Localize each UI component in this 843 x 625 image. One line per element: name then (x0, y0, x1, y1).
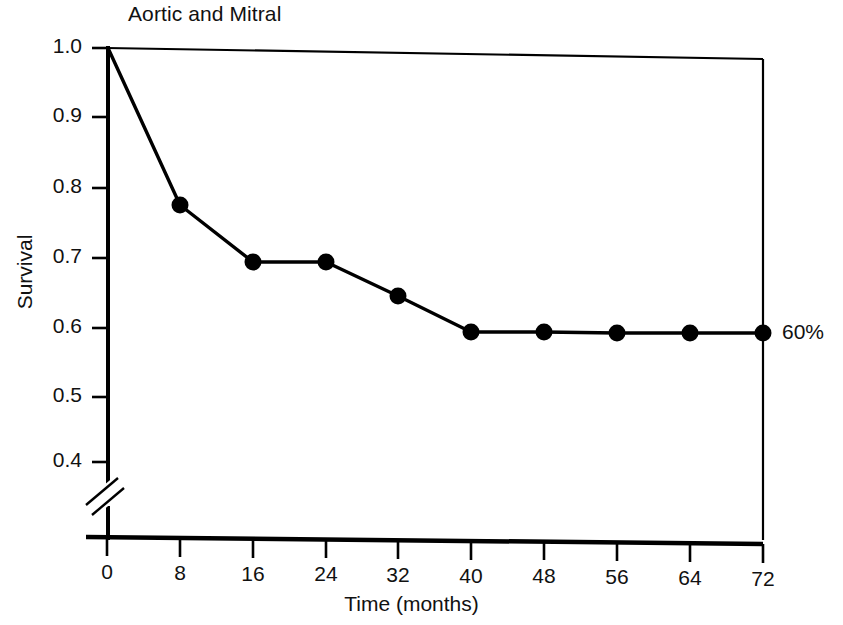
data-point (245, 254, 262, 271)
x-tick-label-24: 24 (296, 562, 356, 586)
x-tick-label-8: 8 (150, 561, 210, 585)
data-point (172, 197, 189, 214)
data-point-markers (172, 197, 772, 342)
y-tick-label-1.0: 1.0 (20, 34, 82, 58)
y-axis-break-icon (86, 478, 124, 515)
x-axis-spine (86, 537, 763, 544)
y-tick-label-0.9: 0.9 (20, 103, 82, 127)
endpoint-annotation-60-percent: 60% (782, 320, 824, 344)
x-tick-label-72: 72 (733, 567, 793, 591)
y-axis-ticks (92, 48, 108, 462)
data-point (463, 324, 480, 341)
data-point (536, 324, 553, 341)
plot-area (0, 0, 843, 625)
y-tick-label-0.4: 0.4 (20, 448, 82, 472)
survival-chart: Aortic and Mitral Survival Time (months) (0, 0, 843, 625)
x-tick-label-16: 16 (223, 562, 283, 586)
x-tick-label-32: 32 (368, 563, 428, 587)
data-point (390, 288, 407, 305)
x-tick-label-48: 48 (514, 564, 574, 588)
y-tick-label-0.8: 0.8 (20, 174, 82, 198)
y-tick-label-0.6: 0.6 (20, 314, 82, 338)
x-tick-label-64: 64 (660, 566, 720, 590)
data-point (318, 254, 335, 271)
data-point (755, 325, 772, 342)
y-tick-label-0.5: 0.5 (20, 383, 82, 407)
x-tick-label-40: 40 (441, 564, 501, 588)
data-point (609, 325, 626, 342)
survival-curve (108, 48, 763, 333)
y-tick-label-0.7: 0.7 (20, 244, 82, 268)
data-point (682, 325, 699, 342)
x-tick-label-56: 56 (587, 565, 647, 589)
x-tick-label-0: 0 (77, 560, 137, 584)
plot-frame-top (107, 48, 763, 59)
